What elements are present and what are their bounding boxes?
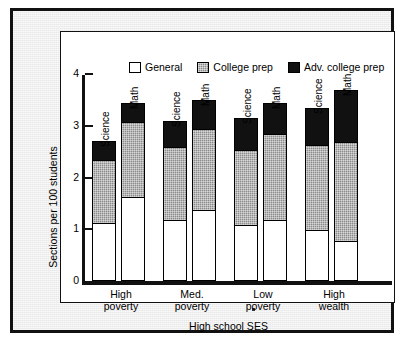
- bar-segment-college: [193, 129, 215, 211]
- y-axis-tick-label: 0: [59, 274, 79, 286]
- bar-segment-college: [93, 160, 115, 224]
- y-axis-tick: [85, 73, 93, 75]
- figure-root: Sections per 100 students GeneralCollege…: [0, 0, 407, 345]
- plot-card: GeneralCollege prepAdv. college prep 432…: [60, 31, 395, 303]
- y-axis-tick-label: 4: [59, 67, 79, 79]
- bar-segment-college: [164, 147, 186, 221]
- bar-segment-college: [306, 145, 328, 232]
- bar-segment-general: [264, 221, 286, 280]
- bar-high-poverty-math[interactable]: [121, 103, 145, 281]
- bar-low-poverty-science[interactable]: [234, 118, 258, 281]
- bar-segment-college: [235, 150, 257, 227]
- y-axis-line: [82, 75, 85, 284]
- category-label-line2: wealth: [291, 300, 377, 312]
- figure-frame: Sections per 100 students GeneralCollege…: [10, 8, 394, 333]
- bar-subject-label: Math: [342, 73, 353, 95]
- bar-subject-label: Science: [313, 78, 324, 114]
- bar-segment-general: [193, 211, 215, 280]
- x-axis-title: High school SES: [61, 320, 396, 332]
- bar-segment-adv: [306, 109, 328, 145]
- bar-med-poverty-math[interactable]: [192, 100, 216, 281]
- bar-segment-general: [93, 224, 115, 280]
- bar-high-wealth-science[interactable]: [305, 108, 329, 281]
- y-axis-tick-label: 3: [59, 119, 79, 131]
- plot-area: 43210ScienceMathScienceMathScienceMathSc…: [61, 32, 396, 304]
- bar-segment-general: [235, 226, 257, 280]
- y-axis-tick-label: 1: [59, 222, 79, 234]
- bar-subject-label: Math: [129, 86, 140, 108]
- bar-subject-label: Science: [242, 89, 253, 125]
- bar-med-poverty-science[interactable]: [163, 121, 187, 281]
- bar-subject-label: Science: [100, 112, 111, 148]
- y-axis-title-wrapper: Sections per 100 students: [35, 101, 49, 251]
- bar-low-poverty-math[interactable]: [263, 103, 287, 281]
- bar-segment-general: [306, 231, 328, 280]
- bar-high-wealth-math[interactable]: [334, 90, 358, 281]
- bar-subject-label: Science: [171, 91, 182, 127]
- bar-segment-college: [122, 122, 144, 199]
- bar-segment-general: [122, 198, 144, 280]
- x-axis-line: [82, 281, 392, 285]
- bar-segment-college: [335, 142, 357, 242]
- bar-segment-general: [164, 221, 186, 280]
- y-axis-tick: [85, 125, 93, 127]
- x-axis-category-label: Highwealth: [291, 288, 377, 312]
- y-axis-title: Sections per 100 students: [47, 117, 59, 297]
- y-axis-tick-label: 2: [59, 171, 79, 183]
- bar-subject-label: Math: [200, 84, 211, 106]
- bar-segment-adv: [335, 91, 357, 142]
- bar-subject-label: Math: [271, 86, 282, 108]
- category-label-line1: High: [291, 288, 377, 300]
- bar-segment-general: [335, 242, 357, 280]
- bar-high-poverty-science[interactable]: [92, 141, 116, 281]
- bar-segment-college: [264, 134, 286, 221]
